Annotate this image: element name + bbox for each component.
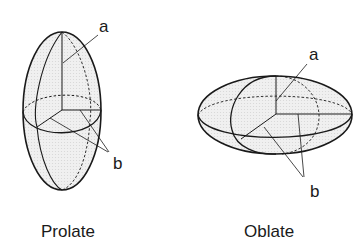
prolate-caption: Prolate xyxy=(41,222,95,241)
prolate-label-a: a xyxy=(99,17,109,36)
spheroid-diagram: a b Prolate a b Oblate xyxy=(0,0,364,247)
prolate-label-b: b xyxy=(113,154,122,173)
oblate-label-a: a xyxy=(309,45,319,64)
oblate-label-b: b xyxy=(310,182,319,201)
prolate-spheroid xyxy=(23,32,109,190)
oblate-spheroid xyxy=(198,64,352,177)
oblate-caption: Oblate xyxy=(244,222,294,241)
